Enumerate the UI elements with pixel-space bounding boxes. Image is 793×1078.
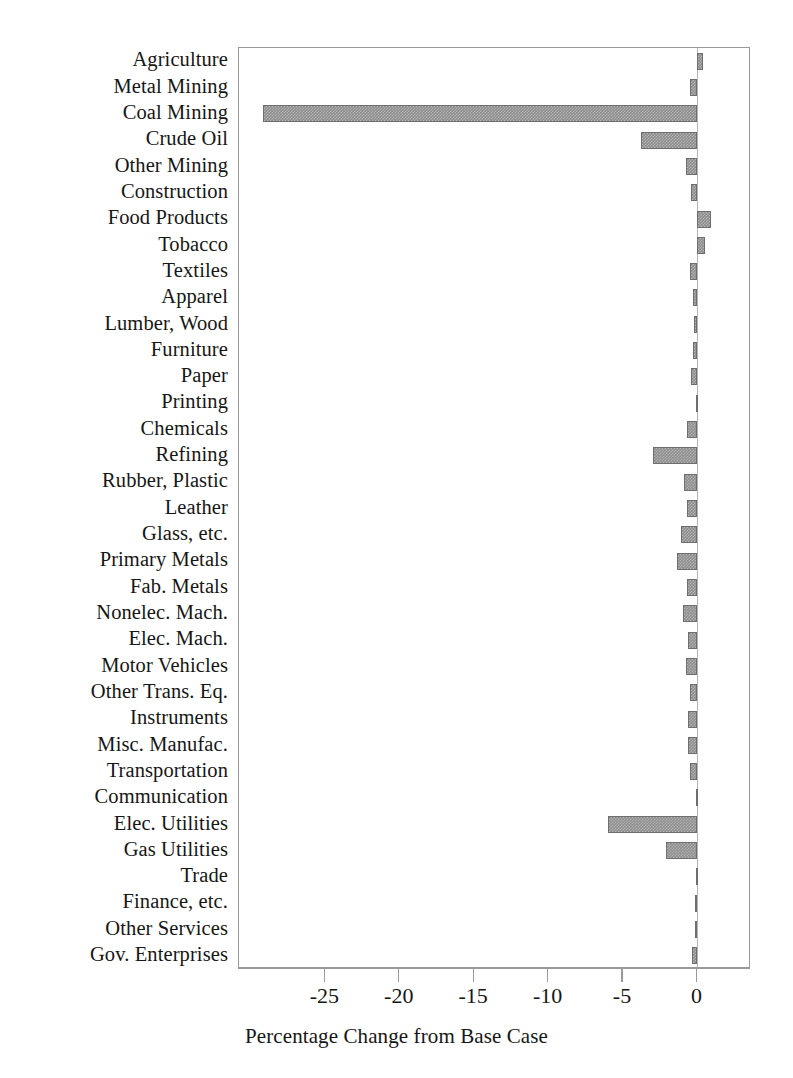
category-label: Textiles — [0, 260, 228, 281]
bar — [697, 53, 703, 70]
category-label: Transportation — [0, 760, 228, 781]
category-label: Elec. Utilities — [0, 813, 228, 834]
bar — [693, 342, 697, 359]
category-label: Furniture — [0, 339, 228, 360]
bar — [690, 684, 697, 701]
bar — [690, 263, 697, 280]
category-label: Crude Oil — [0, 128, 228, 149]
bar — [686, 158, 698, 175]
category-label: Primary Metals — [0, 549, 228, 570]
bar — [688, 737, 697, 754]
x-axis-tick — [621, 969, 622, 982]
category-label: Paper — [0, 365, 228, 386]
category-label: Apparel — [0, 286, 228, 307]
x-axis: -25-20-15-10-50 — [238, 968, 750, 970]
category-label: Elec. Mach. — [0, 628, 228, 649]
x-axis-tick-label: 0 — [691, 984, 702, 1008]
category-label: Glass, etc. — [0, 523, 228, 544]
category-label: Coal Mining — [0, 102, 228, 123]
bar — [653, 447, 698, 464]
bar — [641, 132, 698, 149]
bar — [691, 368, 697, 385]
category-label: Printing — [0, 391, 228, 412]
category-label: Other Trans. Eq. — [0, 681, 228, 702]
category-label: Nonelec. Mach. — [0, 602, 228, 623]
category-label: Gas Utilities — [0, 839, 228, 860]
bar — [666, 842, 697, 859]
bar — [687, 500, 697, 517]
category-label: Food Products — [0, 207, 228, 228]
category-label: Metal Mining — [0, 76, 228, 97]
bar — [694, 316, 697, 333]
bar — [608, 816, 697, 833]
plot-area — [238, 47, 750, 968]
bar-chart-figure: AgricultureMetal MiningCoal MiningCrude … — [0, 0, 793, 1078]
bar — [693, 289, 697, 306]
x-axis-line — [238, 968, 750, 969]
category-label: Tobacco — [0, 234, 228, 255]
x-axis-tick — [696, 969, 697, 982]
x-axis-tick — [324, 969, 325, 982]
x-axis-tick-label: -20 — [384, 984, 413, 1008]
x-axis-tick — [398, 969, 399, 982]
bar — [695, 895, 697, 912]
bar — [688, 632, 697, 649]
bar — [688, 711, 697, 728]
bar — [697, 211, 710, 228]
bar — [687, 421, 697, 438]
category-label: Agriculture — [0, 49, 228, 70]
plot-inner — [239, 48, 749, 967]
category-axis-labels: AgricultureMetal MiningCoal MiningCrude … — [0, 47, 228, 968]
bar — [683, 605, 698, 622]
category-label: Trade — [0, 865, 228, 886]
bar — [686, 658, 698, 675]
bar — [677, 553, 698, 570]
category-label: Misc. Manufac. — [0, 734, 228, 755]
category-label: Other Mining — [0, 155, 228, 176]
x-axis-tick — [473, 969, 474, 982]
bar — [690, 79, 697, 96]
category-label: Lumber, Wood — [0, 313, 228, 334]
category-label: Construction — [0, 181, 228, 202]
category-label: Communication — [0, 786, 228, 807]
x-axis-tick-label: -5 — [613, 984, 631, 1008]
category-label: Instruments — [0, 707, 228, 728]
category-label: Motor Vehicles — [0, 655, 228, 676]
bar — [691, 184, 697, 201]
category-label: Chemicals — [0, 418, 228, 439]
category-label: Gov. Enterprises — [0, 944, 228, 965]
category-label: Finance, etc. — [0, 891, 228, 912]
bar — [690, 763, 697, 780]
bar — [696, 395, 698, 412]
bar — [263, 105, 698, 122]
category-label: Rubber, Plastic — [0, 470, 228, 491]
x-axis-title: Percentage Change from Base Case — [0, 1023, 793, 1049]
bar — [696, 789, 698, 806]
category-label: Fab. Metals — [0, 576, 228, 597]
bar — [696, 868, 698, 885]
category-label: Other Services — [0, 918, 228, 939]
bar — [681, 526, 697, 543]
category-label: Refining — [0, 444, 228, 465]
bar — [697, 237, 704, 254]
category-label: Leather — [0, 497, 228, 518]
x-axis-tick-label: -25 — [310, 984, 339, 1008]
bar — [692, 947, 697, 964]
bar — [695, 921, 697, 938]
x-axis-tick — [547, 969, 548, 982]
bar — [684, 474, 697, 491]
x-axis-tick-label: -10 — [533, 984, 562, 1008]
x-axis-tick-label: -15 — [458, 984, 487, 1008]
bar — [687, 579, 697, 596]
